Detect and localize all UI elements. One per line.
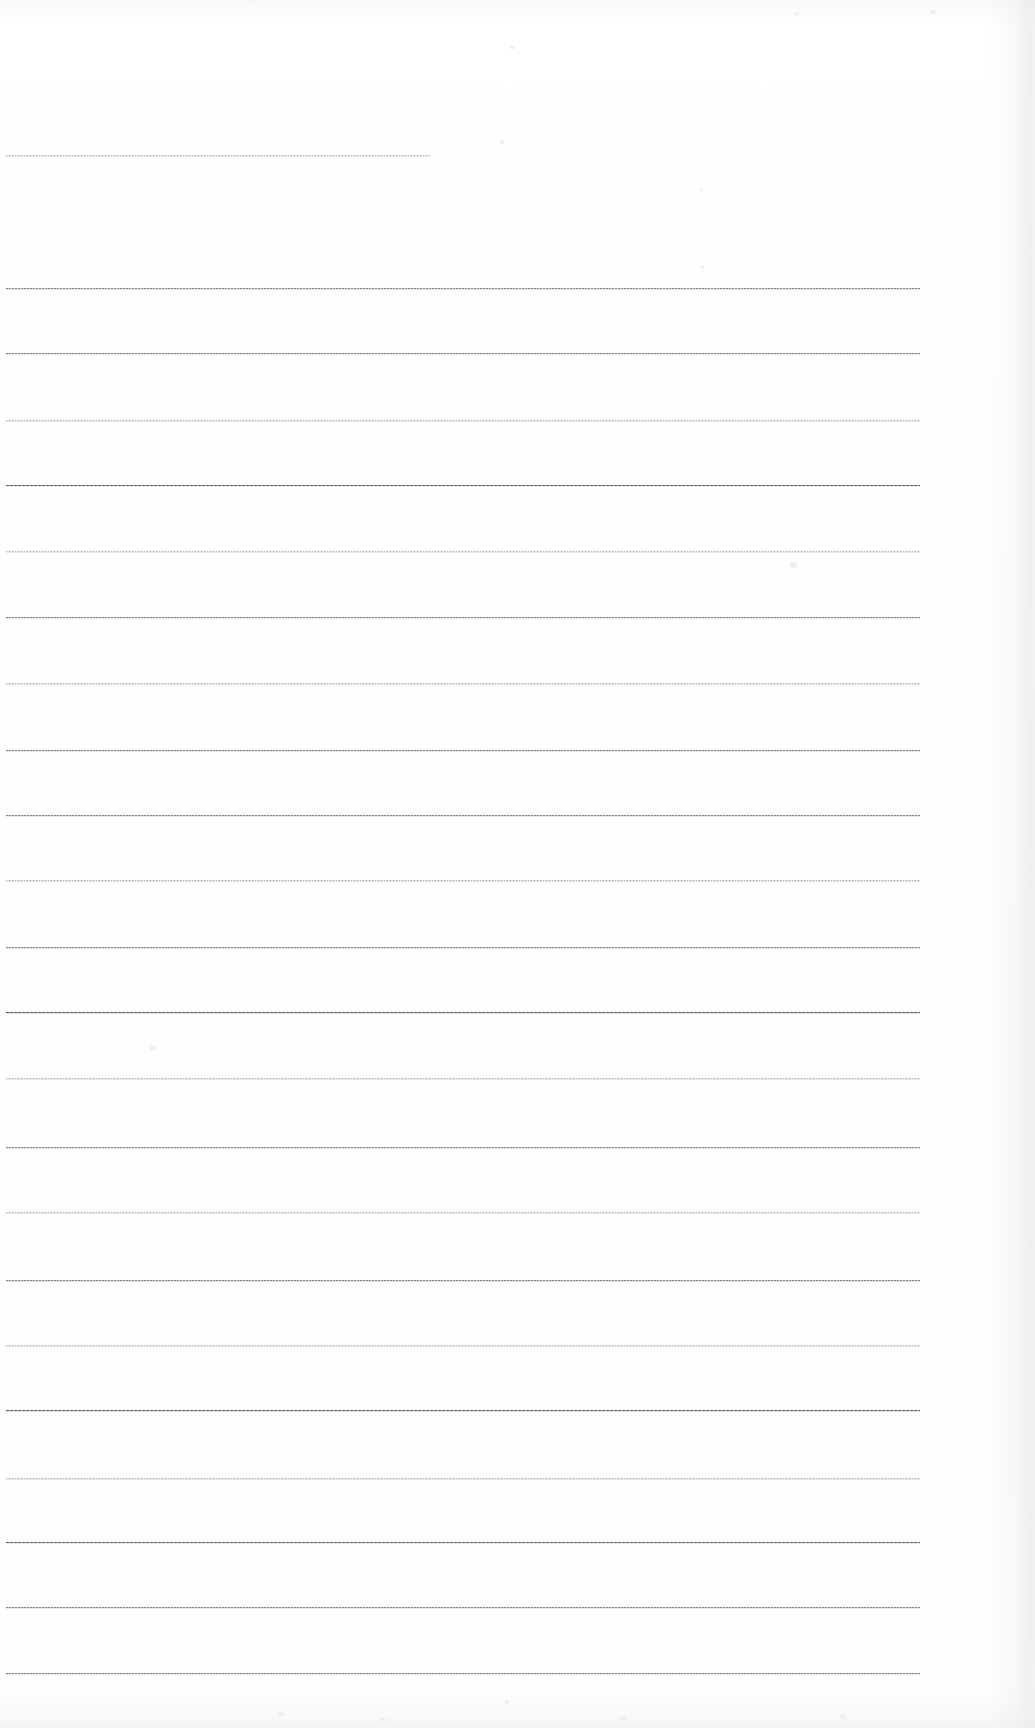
ruled-line (6, 815, 920, 816)
top-edge-shadow (0, 0, 1035, 26)
scan-speckle (790, 562, 797, 568)
ruled-line (6, 1410, 920, 1411)
ruled-line (6, 1345, 920, 1346)
ruled-line (6, 353, 920, 354)
ruled-line (6, 683, 920, 684)
ruled-line (6, 1212, 920, 1213)
ruled-line (6, 1012, 920, 1013)
scan-speckle (840, 1714, 846, 1719)
scan-speckle (620, 1716, 627, 1720)
scan-speckle (700, 188, 703, 191)
ruled-line (6, 1673, 920, 1674)
scanned-page (0, 0, 1035, 1728)
scan-speckle (795, 12, 799, 15)
scan-speckle (510, 46, 515, 49)
ruled-line (6, 1078, 920, 1079)
ruled-line (6, 947, 920, 948)
ruled-line (6, 1542, 920, 1543)
ruled-line (6, 288, 920, 289)
scan-speckle (505, 1700, 509, 1704)
ruled-line (6, 1280, 920, 1281)
ruled-line (6, 617, 920, 618)
ruled-line (6, 485, 920, 486)
scan-speckle (150, 1046, 156, 1050)
scan-speckle (278, 1712, 284, 1716)
bottom-edge-shadow (0, 1688, 1035, 1728)
scan-speckle (500, 140, 504, 144)
ruled-line (6, 1478, 920, 1479)
scan-speckle (930, 10, 936, 14)
ruled-line (6, 1607, 920, 1608)
scan-speckle (380, 1718, 385, 1721)
scan-speckle (700, 266, 705, 269)
paper-surface (0, 0, 1035, 1728)
ruled-line (6, 551, 920, 552)
ruled-line (6, 420, 920, 421)
ruled-line (6, 1147, 920, 1148)
ruled-line (6, 155, 430, 156)
ruled-line (6, 880, 920, 881)
ruled-line (6, 750, 920, 751)
right-edge-shadow (989, 0, 1035, 1728)
